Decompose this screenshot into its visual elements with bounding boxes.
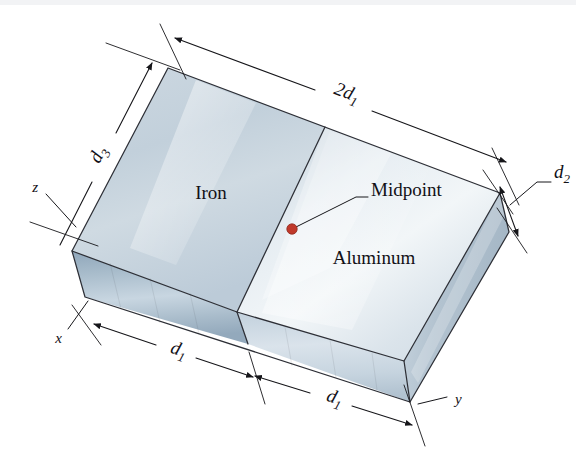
axis-label-y: y bbox=[453, 391, 462, 407]
axis-label-z: z bbox=[31, 179, 38, 195]
axis-leader-z bbox=[46, 194, 76, 227]
figure-root: 2d1 d3 d2 d1 bbox=[0, 0, 576, 464]
dim-line-d1-left-seg-a bbox=[94, 324, 156, 345]
dimension-label-d1-left: d1 bbox=[167, 336, 190, 365]
block-solid bbox=[72, 68, 509, 402]
axis-label-x: x bbox=[54, 330, 62, 346]
dim-line-d1-right-seg-b bbox=[352, 406, 412, 425]
material-label-aluminum: Aluminum bbox=[333, 247, 416, 268]
dimension-label-d2: d2 bbox=[554, 161, 571, 186]
dim-line-d1-right-seg-a bbox=[255, 376, 310, 393]
block-diagram-svg: 2d1 d3 d2 d1 bbox=[0, 0, 576, 464]
midpoint-dot bbox=[287, 224, 297, 234]
axis-leader-y bbox=[418, 397, 447, 404]
dimension-label-d1-right: d1 bbox=[323, 384, 346, 413]
scan-artifact-strip bbox=[0, 0, 576, 5]
dimension-label-2d1: 2d1 bbox=[330, 78, 363, 110]
dim-line-d1-left-seg-b bbox=[196, 358, 253, 377]
ext-line-d3-top bbox=[106, 43, 180, 70]
midpoint-label: Midpoint bbox=[371, 179, 442, 200]
dimension-label-d3: d3 bbox=[84, 142, 114, 168]
material-label-iron: Iron bbox=[195, 182, 227, 203]
leader-line-d2 bbox=[510, 182, 551, 205]
axis-leader-x bbox=[68, 301, 88, 329]
